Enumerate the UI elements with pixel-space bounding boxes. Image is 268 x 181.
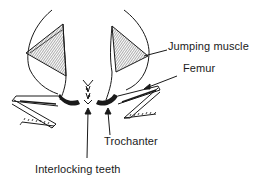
interlocking-teeth-shape [83,80,93,104]
femur-left [12,96,58,106]
coxa-right [106,26,112,100]
trochanter-left [58,94,80,106]
jumping-mechanism-diagram [0,0,268,181]
label-femur: Femur [183,63,215,74]
label-interlocking-teeth: Interlocking teeth [35,164,121,175]
label-jumping-muscle: Jumping muscle [168,41,249,52]
tarsus-left [22,122,54,126]
tarsus-right [124,114,156,118]
label-trochanter: Trochanter [104,136,158,147]
jumping-muscle-right [112,26,148,72]
